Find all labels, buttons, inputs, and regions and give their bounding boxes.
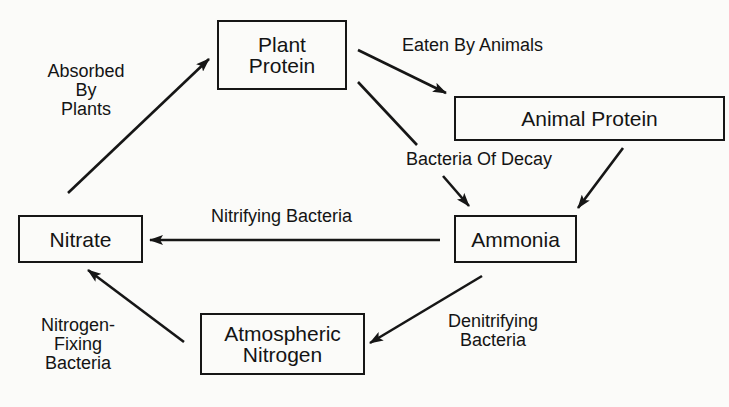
node-ammonia: Ammonia: [454, 215, 577, 263]
label-bacteria-of-decay: Bacteria Of Decay: [406, 150, 552, 169]
label-absorbed-line3: Plants: [36, 100, 136, 119]
label-denitrifying-line1: Denitrifying: [438, 312, 548, 331]
arrow-bacteria-of-decay-upper: [358, 82, 417, 145]
node-animal-protein: Animal Protein: [454, 96, 725, 141]
label-nitrogen-fixing-bacteria: Nitrogen- Fixing Bacteria: [28, 316, 128, 373]
node-plant-protein-line1: Plant: [258, 34, 306, 55]
label-absorbed-line2: By: [36, 81, 136, 100]
node-plant-protein: Plant Protein: [217, 20, 347, 90]
label-nitrifying-bacteria: Nitrifying Bacteria: [211, 207, 352, 226]
label-eaten-by-animals: Eaten By Animals: [402, 36, 543, 55]
label-nitrogen-fixing-line2: Fixing: [28, 335, 128, 354]
arrow-bacteria-of-decay-lower: [443, 176, 469, 206]
node-atmospheric-nitrogen-line1: Atmospheric: [224, 323, 341, 344]
label-denitrifying-bacteria: Denitrifying Bacteria: [438, 312, 548, 350]
node-ammonia-label: Ammonia: [471, 229, 560, 250]
node-plant-protein-line2: Protein: [249, 55, 316, 76]
label-nitrogen-fixing-line1: Nitrogen-: [28, 316, 128, 335]
label-absorbed-by-plants: Absorbed By Plants: [36, 62, 136, 119]
label-denitrifying-line2: Bacteria: [438, 331, 548, 350]
label-absorbed-line1: Absorbed: [36, 62, 136, 81]
node-animal-protein-label: Animal Protein: [521, 108, 658, 129]
node-atmospheric-nitrogen-line2: Nitrogen: [243, 344, 322, 365]
node-atmospheric-nitrogen: Atmospheric Nitrogen: [200, 313, 365, 375]
node-nitrate-label: Nitrate: [50, 229, 112, 250]
arrow-animal-to-ammonia: [578, 148, 623, 208]
label-nitrogen-fixing-line3: Bacteria: [28, 354, 128, 373]
node-nitrate: Nitrate: [18, 215, 143, 263]
arrow-eaten-by-animals: [358, 50, 446, 93]
